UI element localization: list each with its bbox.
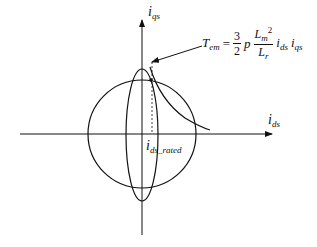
eq-lhs: Tem xyxy=(202,35,220,52)
eq-iqs-sub: qs xyxy=(295,42,303,52)
eq-frac2-den: Lr xyxy=(258,45,268,61)
ids-label-sub: ds xyxy=(272,119,280,129)
eq-equals: = xyxy=(223,36,230,52)
eq-ids-sub: ds xyxy=(280,42,288,52)
equation-pointer-arrow xyxy=(152,46,202,62)
eq-frac1-den: 2 xyxy=(234,44,240,57)
eq-lhs-sub: em xyxy=(209,42,220,52)
eq-iqs: iqs xyxy=(291,35,303,52)
torque-curve xyxy=(150,67,210,130)
iqs-label-sub: qs xyxy=(152,11,160,21)
ids-axis-label: ids xyxy=(268,112,280,129)
eq-lr-sub: r xyxy=(265,51,269,61)
ids-rated-sub: ds_rated xyxy=(150,145,182,155)
eq-frac-inductance: Lm2 Lr xyxy=(254,26,274,61)
ids-rated-label: ids_rated xyxy=(146,138,181,155)
eq-lm-sup: 2 xyxy=(268,25,273,35)
eq-frac1-num: 3 xyxy=(233,30,241,44)
eq-lr-main: L xyxy=(258,45,265,59)
eq-frac-three-halves: 3 2 xyxy=(233,30,241,57)
eq-frac2-num: Lm2 xyxy=(254,26,274,45)
eq-ids: ids xyxy=(276,35,288,52)
torque-equation: Tem = 3 2 p Lm2 Lr ids iqs xyxy=(202,26,303,61)
eq-pole-pairs: p xyxy=(244,36,251,52)
iqs-axis-label: iqs xyxy=(148,4,160,21)
operating-point xyxy=(149,78,153,82)
